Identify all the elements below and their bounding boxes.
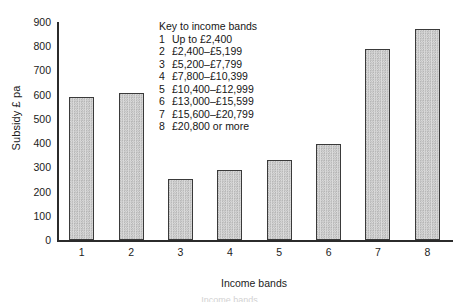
legend-entry-range: £10,400–£12,999 [172, 83, 254, 96]
legend-entry-number: 4 [159, 70, 172, 83]
legend-entry-range: Up to £2,400 [172, 33, 232, 46]
legend-entry: 2£2,400–£5,199 [159, 45, 257, 58]
y-tick-label: 600 [33, 89, 51, 101]
x-tick-label: 6 [326, 246, 332, 258]
y-tick-label: 900 [33, 16, 51, 28]
legend-title: Key to income bands [159, 20, 257, 33]
bar [415, 29, 440, 240]
legend-entry-number: 2 [159, 45, 172, 58]
x-tick-label: 2 [128, 246, 134, 258]
bar [119, 93, 144, 240]
y-tick-label: 200 [33, 186, 51, 198]
legend-entry-number: 1 [159, 33, 172, 46]
x-tick-label: 3 [178, 246, 184, 258]
x-tick-label: 5 [276, 246, 282, 258]
x-tick-label: 8 [424, 246, 430, 258]
legend-entry-number: 3 [159, 58, 172, 71]
x-tick-label: 4 [227, 246, 233, 258]
legend-entry-range: £7,800–£10,399 [172, 70, 248, 83]
x-tick-label: 7 [375, 246, 381, 258]
legend-entry-range: £2,400–£5,199 [172, 45, 242, 58]
y-tick-label: 400 [33, 137, 51, 149]
legend-entry-number: 5 [159, 83, 172, 96]
bar [365, 49, 390, 240]
legend-entry-number: 6 [159, 95, 172, 108]
x-axis-line [57, 240, 453, 242]
legend-entry-range: £20,800 or more [172, 120, 249, 133]
legend-entry: 8£20,800 or more [159, 120, 257, 133]
bar [168, 179, 193, 240]
figure-caption-cropped: Income bands [0, 295, 459, 302]
y-tick-label: 700 [33, 64, 51, 76]
bar [267, 160, 292, 240]
legend-entry: 4£7,800–£10,399 [159, 70, 257, 83]
legend-entry: 6£13,000–£15,599 [159, 95, 257, 108]
y-axis-title: Subsidy £ pa [10, 58, 22, 178]
y-tick-label: 500 [33, 113, 51, 125]
legend-entry-range: £15,600–£20,799 [172, 108, 254, 121]
bar [217, 170, 242, 240]
legend-entry-number: 7 [159, 108, 172, 121]
legend-entry: 1Up to £2,400 [159, 33, 257, 46]
legend-entry-range: £13,000–£15,599 [172, 95, 254, 108]
y-tick-label: 0 [45, 234, 51, 246]
bar [316, 144, 341, 240]
bar [69, 97, 94, 240]
legend-entry-number: 8 [159, 120, 172, 133]
y-axis-line [57, 22, 59, 241]
y-tick-label: 800 [33, 40, 51, 52]
x-axis-title: Income bands [56, 277, 452, 289]
legend-entries: 1Up to £2,4002£2,400–£5,1993£5,200–£7,79… [159, 33, 257, 133]
legend-entry: 3£5,200–£7,799 [159, 58, 257, 71]
legend-entry-range: £5,200–£7,799 [172, 58, 242, 71]
legend-entry: 7£15,600–£20,799 [159, 108, 257, 121]
legend-entry: 5£10,400–£12,999 [159, 83, 257, 96]
legend-key: Key to income bands 1Up to £2,4002£2,400… [159, 20, 257, 133]
y-tick-label: 300 [33, 161, 51, 173]
bar-chart-figure: Subsidy £ pa 010020030040050060070080090… [0, 0, 459, 302]
y-tick-label: 100 [33, 210, 51, 222]
x-tick-label: 1 [79, 246, 85, 258]
